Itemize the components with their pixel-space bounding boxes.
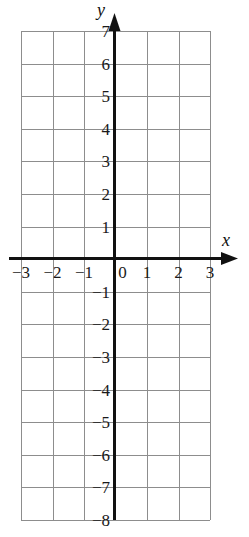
- y-tick-label: 1: [102, 218, 111, 235]
- x-axis-arrowhead: [221, 252, 238, 265]
- x-tick-label: −1: [75, 264, 93, 281]
- x-tick-label: 1: [143, 264, 152, 281]
- y-tick-label: −7: [92, 479, 110, 496]
- y-axis-label: y: [97, 1, 105, 19]
- y-tick-label: −2: [92, 316, 110, 333]
- y-tick-label: −3: [92, 349, 110, 366]
- y-tick-label: 3: [102, 153, 111, 170]
- y-tick-label: 6: [102, 55, 111, 72]
- x-tick-label: 3: [206, 264, 215, 281]
- coordinate-plane: −3−2−101237654321−1−2−3−4−5−6−7−8yx: [0, 0, 249, 537]
- y-tick-label: 2: [102, 186, 111, 203]
- y-tick-label: 7: [102, 23, 111, 40]
- y-tick-label: −8: [92, 512, 110, 529]
- y-tick-label: −1: [92, 283, 110, 300]
- y-tick-label: 5: [102, 88, 111, 105]
- x-axis-label: x: [222, 231, 230, 249]
- y-tick-label: 4: [102, 120, 111, 137]
- y-tick-label: −4: [92, 381, 110, 398]
- x-tick-label: −2: [43, 264, 61, 281]
- y-tick-label: −6: [92, 446, 110, 463]
- y-tick-label: −5: [92, 414, 110, 431]
- x-tick-label: 0: [118, 264, 127, 281]
- x-tick-label: 2: [174, 264, 183, 281]
- x-tick-label: −3: [12, 264, 30, 281]
